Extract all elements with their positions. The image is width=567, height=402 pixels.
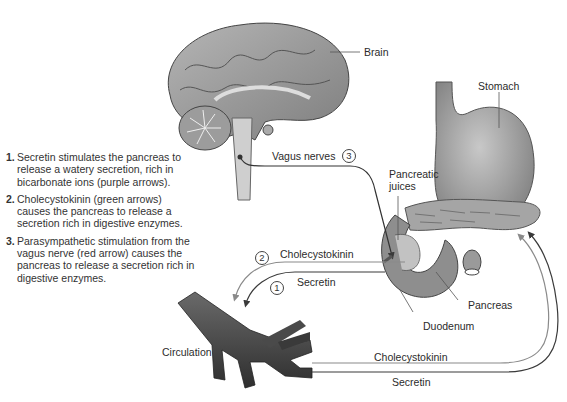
pancreas-illustration [405, 199, 540, 230]
legend-item-secretin: 1. Secretin stimulates the pancreas to r… [6, 151, 196, 188]
legend-text: Parasympathetic stimulation from the vag… [17, 235, 194, 284]
marker-3: 3 [342, 149, 356, 163]
label-cholecystokinin-lower: Cholecystokinin [374, 351, 448, 363]
label-pancreas: Pancreas [468, 299, 512, 311]
label-secretin-upper: Secretin [297, 276, 336, 288]
legend-number: 1. [6, 151, 15, 163]
legend-number: 3. [6, 235, 15, 247]
legend-number: 2. [6, 193, 15, 205]
legend-item-cholecystokinin: 2. Cholecystokinin (green arrows) causes… [6, 193, 196, 230]
label-pancreatic-juices-1: Pancreatic [389, 168, 439, 180]
legend: 1. Secretin stimulates the pancreas to r… [6, 151, 196, 289]
marker-2: 2 [255, 251, 269, 265]
vagus-nerve-arrow [240, 157, 392, 256]
circulation-vessel-illustration [178, 292, 312, 388]
legend-text: Secretin stimulates the pancreas to rele… [17, 151, 181, 188]
label-brain: Brain [364, 46, 389, 58]
label-vagus-nerves: Vagus nerves [272, 150, 335, 162]
legend-text: Cholecystokinin (green arrows) causes th… [17, 193, 183, 230]
label-secretin-lower: Secretin [392, 376, 431, 388]
label-pancreatic-juices-2: juices [389, 180, 416, 192]
label-stomach: Stomach [478, 80, 519, 92]
hormonal-control-diagram: 1. Secretin stimulates the pancreas to r… [0, 0, 567, 402]
label-circulation: Circulation [162, 346, 212, 358]
marker-1: 1 [270, 281, 284, 295]
label-duodenum: Duodenum [423, 320, 474, 332]
label-cholecystokinin-upper: Cholecystokinin [280, 248, 354, 260]
legend-item-vagus: 3. Parasympathetic stimulation from the … [6, 235, 196, 284]
